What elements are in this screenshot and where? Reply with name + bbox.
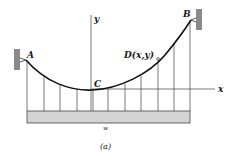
cable-diagram: A B C D(x,y) y x w (a) [0, 0, 232, 166]
label-load-w: w [103, 124, 109, 131]
label-x-axis: x [217, 84, 224, 94]
figure-caption: (a) [100, 142, 111, 151]
right-wall-support [196, 9, 202, 30]
label-a: A [26, 50, 34, 60]
cable [26, 20, 191, 90]
label-y-axis: y [93, 14, 100, 24]
pin-a-icon [20, 58, 26, 62]
hangers [27, 21, 190, 111]
label-b: B [182, 9, 191, 19]
point-d-marker [157, 58, 160, 61]
label-d: D(x,y) [123, 50, 154, 61]
left-wall-support [14, 49, 20, 70]
deck-load [27, 111, 190, 123]
pin-b-icon [191, 18, 196, 22]
label-c: C [94, 79, 102, 89]
